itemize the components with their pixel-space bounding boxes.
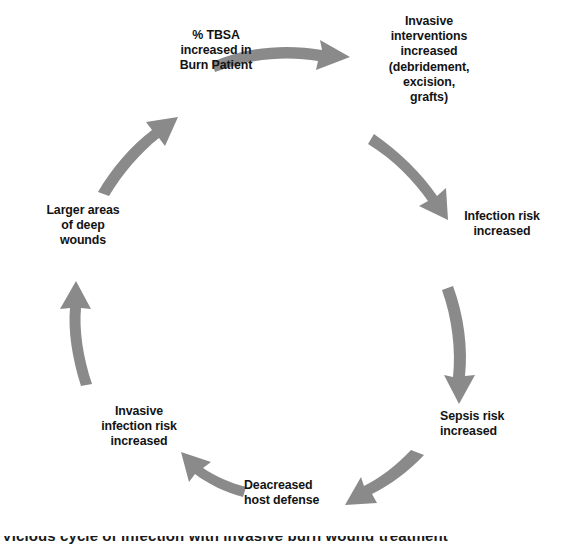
cycle-diagram: % TBSA increased in Burn Patient Invasiv… [0,0,577,548]
arrow-hostdefense-to-invasiveinfection [181,452,246,497]
arrow-interventions-to-infection [368,134,448,220]
figure-caption-clipped: Vicious cycle of infection with invasive… [0,536,577,548]
cycle-node-deep-wounds: Larger areas of deep wounds [15,203,151,249]
cycle-node-invasive-interventions: Invasive interventions increased (debrid… [356,14,502,105]
cycle-node-invasive-infection-risk: Invasive infection risk increased [66,404,212,450]
figure-caption-text: Vicious cycle of infection with invasive… [2,536,448,545]
arrow-infection-to-sepsis [442,286,475,404]
arrow-invasiveinfection-to-wounds [60,281,92,386]
cycle-node-tbsa: % TBSA increased in Burn Patient [141,28,291,74]
cycle-node-host-defense: Deacreased host defense [244,478,366,508]
cycle-node-infection-risk: Infection risk increased [434,209,570,239]
cycle-node-sepsis-risk: Sepsis risk increased [440,409,566,439]
arrow-wounds-to-tbsa [98,117,178,196]
